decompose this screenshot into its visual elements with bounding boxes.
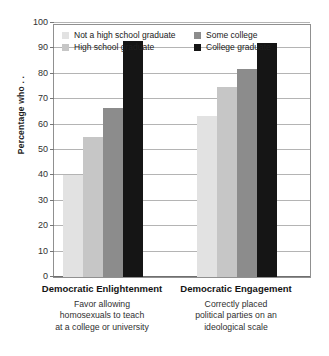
bar <box>217 87 237 278</box>
y-axis-tick-label: 40 <box>38 169 48 179</box>
legend-item: High school graduate <box>62 43 194 52</box>
y-axis-tick-label: 90 <box>38 42 48 52</box>
y-axis-tick-label: 60 <box>38 119 48 129</box>
legend-swatch-icon <box>194 32 201 39</box>
legend-label: High school graduate <box>74 43 154 52</box>
bar <box>197 116 217 277</box>
bar <box>237 69 257 277</box>
bar <box>63 175 83 277</box>
bar <box>123 41 143 277</box>
y-axis-tick-mark <box>50 22 54 23</box>
legend-item: Some college <box>194 31 308 40</box>
chart-legend: Not a high school graduate Some college … <box>62 29 308 53</box>
bar-chart-figure: Percentage who . . 100908070605040302010… <box>0 0 329 356</box>
y-axis-tick-label: 20 <box>38 220 48 230</box>
legend-label: Not a high school graduate <box>74 31 176 40</box>
category-title: Democratic Engagement <box>156 284 316 295</box>
legend-swatch-icon <box>62 44 69 51</box>
legend-swatch-icon <box>62 32 69 39</box>
bar <box>257 43 277 277</box>
legend-swatch-icon <box>194 44 201 51</box>
category-subtitle: Correctly placedpolitical parties on ani… <box>156 299 316 333</box>
category-subtitle-line: ideological scale <box>156 322 316 333</box>
y-axis-title: Percentage who . . <box>16 50 26 180</box>
y-axis-tick-label: 100 <box>33 17 48 27</box>
y-axis-tick-label: 30 <box>38 195 48 205</box>
legend-item: Not a high school graduate <box>62 31 194 40</box>
gridline: 100 <box>54 22 310 23</box>
category-subtitle-line: political parties on an <box>156 310 316 321</box>
y-axis-tick-label: 80 <box>38 68 48 78</box>
bar <box>103 108 123 277</box>
y-axis-tick-label: 10 <box>38 246 48 256</box>
bar <box>83 137 103 277</box>
y-axis-tick-label: 0 <box>43 271 48 281</box>
y-axis-tick-label: 50 <box>38 144 48 154</box>
category-subtitle-line: Correctly placed <box>156 299 316 310</box>
legend-label: College graduate <box>206 43 271 52</box>
legend-label: Some college <box>206 31 258 40</box>
y-axis-tick-label: 70 <box>38 93 48 103</box>
legend-item: College graduate <box>194 43 308 52</box>
bar-series-group <box>54 25 310 277</box>
x-axis-category: Democratic EngagementCorrectly placedpol… <box>156 284 316 333</box>
plot-area: 1009080706050403020100 Not a high school… <box>53 24 311 278</box>
